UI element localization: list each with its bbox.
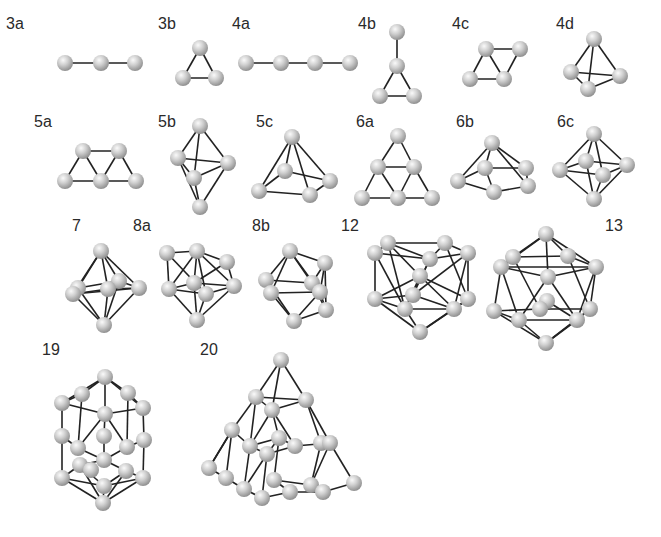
cluster-label-4a: 4a	[232, 16, 250, 32]
cluster-label-6c: 6c	[557, 114, 574, 130]
atom-sphere	[318, 302, 334, 318]
cluster-label-4d: 4d	[556, 16, 574, 32]
atom-sphere	[586, 31, 602, 47]
atom-sphere	[372, 88, 388, 104]
atom-sphere	[282, 484, 298, 500]
atom-sphere	[263, 285, 279, 301]
cluster-6c	[552, 126, 635, 207]
atom-sphere	[136, 432, 152, 448]
atom-sphere	[580, 81, 596, 97]
cluster-5a	[57, 143, 144, 189]
atom-sphere	[95, 495, 111, 511]
cluster-20	[201, 352, 362, 506]
atom-sphere	[57, 55, 73, 71]
atom-sphere	[317, 255, 333, 271]
atom-sphere	[186, 170, 202, 186]
atom-sphere	[96, 317, 112, 333]
atom-sphere	[380, 235, 396, 251]
cluster-4a	[238, 55, 358, 71]
atom-sphere	[170, 150, 186, 166]
atom-sphere	[390, 128, 406, 144]
cluster-12	[367, 235, 476, 340]
atom-sphere	[75, 143, 91, 159]
cluster-5b	[170, 118, 236, 215]
atom-sphere	[346, 475, 362, 491]
atom-sphere	[93, 173, 109, 189]
atom-sphere	[354, 190, 370, 206]
atom-sphere	[175, 70, 191, 86]
atom-sphere	[406, 159, 422, 175]
atom-sphere	[298, 392, 314, 408]
cluster-label-19: 19	[42, 342, 60, 358]
cluster-4b	[372, 24, 422, 104]
atom-sphere	[226, 278, 242, 294]
atom-sphere	[540, 269, 556, 285]
atom-sphere	[496, 71, 512, 87]
atom-sphere	[192, 40, 208, 56]
atom-sphere	[74, 386, 90, 402]
atom-sphere	[96, 428, 112, 444]
atom-sphere	[595, 167, 611, 183]
atom-sphere	[412, 268, 428, 284]
atom-sphere	[119, 439, 135, 455]
cluster-4c	[462, 41, 528, 87]
atom-sphere	[159, 245, 175, 261]
atom-sphere	[251, 183, 267, 199]
atom-sphere	[100, 281, 116, 297]
bond	[420, 299, 468, 332]
atom-sphere	[586, 191, 602, 207]
atom-sphere	[120, 385, 136, 401]
atom-sphere	[97, 369, 113, 385]
atom-sphere	[342, 55, 358, 71]
atom-sphere	[111, 143, 127, 159]
atom-sphere	[54, 428, 70, 444]
atom-sphere	[405, 287, 421, 303]
atom-sphere	[389, 24, 405, 40]
atom-sphere	[286, 313, 302, 329]
cluster-7	[65, 243, 147, 333]
atom-sphere	[96, 452, 112, 468]
cluster-label-4b: 4b	[358, 16, 376, 32]
atom-sphere	[273, 352, 289, 368]
atom-sphere	[54, 470, 70, 486]
atom-sphere	[208, 70, 224, 86]
atom-sphere	[450, 173, 466, 189]
atom-sphere	[588, 259, 604, 275]
atom-sphere	[462, 71, 478, 87]
atom-sphere	[437, 235, 453, 251]
atom-sphere	[518, 160, 534, 176]
cluster-label-3b: 3b	[158, 16, 176, 32]
cluster-label-3a: 3a	[6, 16, 24, 32]
atom-sphere	[127, 55, 143, 71]
atom-sphere	[477, 160, 493, 176]
atom-sphere	[520, 178, 536, 194]
atom-sphere	[569, 312, 585, 328]
atom-sphere	[446, 301, 462, 317]
atom-sphere	[238, 55, 254, 71]
bond	[501, 267, 519, 320]
atom-sphere	[219, 254, 235, 270]
atom-sphere	[552, 162, 568, 178]
atom-sphere	[264, 402, 280, 418]
atom-sphere	[478, 41, 494, 57]
atom-sphere	[578, 153, 594, 169]
cluster-label-5b: 5b	[158, 114, 176, 130]
atom-sphere	[271, 430, 287, 446]
cluster-6b	[450, 135, 536, 200]
atom-sphere	[322, 435, 338, 451]
atom-sphere	[586, 126, 602, 142]
atom-sphere	[367, 291, 383, 307]
atom-sphere	[135, 400, 151, 416]
atom-sphere	[582, 301, 598, 317]
atom-sphere	[322, 173, 338, 189]
atom-sphere	[96, 478, 112, 494]
atom-sphere	[131, 280, 147, 296]
bond	[513, 256, 568, 257]
atom-sphere	[563, 64, 579, 80]
atom-sphere	[282, 243, 298, 259]
atom-sphere	[248, 389, 264, 405]
cluster-label-7: 7	[72, 218, 81, 234]
cluster-6a	[354, 128, 440, 206]
cluster-3a	[57, 55, 143, 71]
cluster-8b	[258, 243, 334, 329]
